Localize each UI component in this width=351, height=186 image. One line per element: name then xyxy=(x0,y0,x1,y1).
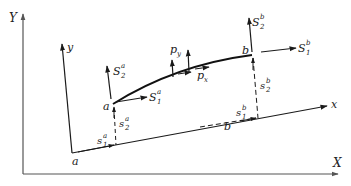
svg-text:p: p xyxy=(170,43,177,56)
svg-text:a: a xyxy=(103,132,107,140)
svg-text:S: S xyxy=(149,91,157,104)
local-y-axis xyxy=(62,44,72,153)
svg-text:1: 1 xyxy=(157,98,161,106)
svg-text:S: S xyxy=(252,16,260,29)
svg-text:S: S xyxy=(298,42,306,55)
S1b-arrow xyxy=(261,48,296,52)
point-b-label: b xyxy=(242,44,249,57)
s1a-arrow xyxy=(78,145,114,152)
svg-text:b: b xyxy=(242,104,247,112)
S2b-label: S b 2 xyxy=(252,13,265,31)
svg-text:a: a xyxy=(125,115,129,123)
svg-text:2: 2 xyxy=(259,23,265,31)
svg-text:s: s xyxy=(119,118,124,129)
svg-text:2: 2 xyxy=(120,72,126,80)
element-diagram: Y X y x a b a b S a 2 S a 1 xyxy=(0,0,351,186)
svg-text:b: b xyxy=(266,77,271,85)
projection-b-label: b xyxy=(224,120,231,133)
svg-text:b: b xyxy=(306,39,311,47)
svg-text:x: x xyxy=(204,76,208,84)
svg-text:a: a xyxy=(121,62,125,70)
s1a-label: s a 1 xyxy=(97,132,107,149)
svg-text:1: 1 xyxy=(306,49,310,57)
svg-text:a: a xyxy=(157,88,161,96)
px-label: p x xyxy=(197,69,208,84)
svg-text:p: p xyxy=(197,69,204,82)
S1a-label: S a 1 xyxy=(149,88,161,106)
local-origin-label: a xyxy=(72,155,79,168)
s2b-label: s b 2 xyxy=(260,77,271,94)
svg-text:s: s xyxy=(97,135,102,146)
py-label: p y xyxy=(170,43,182,58)
svg-text:b: b xyxy=(260,13,265,21)
svg-text:1: 1 xyxy=(242,113,246,121)
svg-text:2: 2 xyxy=(265,86,271,94)
s2a-label: s a 2 xyxy=(119,115,130,132)
global-axes: Y X xyxy=(9,11,342,174)
svg-text:1: 1 xyxy=(103,141,107,149)
S1b-label: S b 1 xyxy=(298,39,311,57)
s1b-label: s b 1 xyxy=(236,104,247,121)
svg-text:S: S xyxy=(113,65,121,78)
svg-text:s: s xyxy=(260,80,265,91)
global-y-label: Y xyxy=(9,11,18,25)
local-x-label: x xyxy=(331,98,338,111)
svg-text:2: 2 xyxy=(124,124,130,132)
beam-curve xyxy=(113,55,252,104)
S2a-arrow xyxy=(107,66,111,99)
S2a-label: S a 2 xyxy=(113,62,126,80)
dashed-b-vertical xyxy=(253,58,258,118)
svg-text:s: s xyxy=(236,107,241,118)
svg-text:y: y xyxy=(176,50,182,58)
point-a-label: a xyxy=(103,100,110,113)
global-x-label: X xyxy=(332,156,342,170)
local-y-label: y xyxy=(66,41,74,54)
